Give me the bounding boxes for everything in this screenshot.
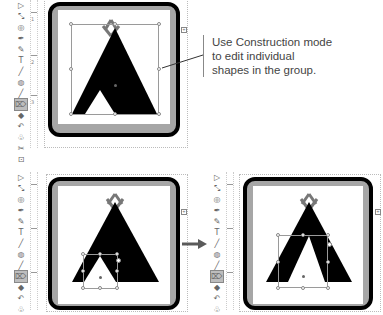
handle[interactable]	[301, 233, 305, 237]
handle[interactable]	[326, 286, 330, 290]
node-point	[327, 242, 332, 247]
group-toggle[interactable]: +	[375, 209, 381, 215]
handle[interactable]	[326, 233, 330, 237]
center-point	[302, 275, 305, 278]
construction-selection-box	[278, 235, 328, 288]
bottom-right-panel: ▷ ⤡ ◎ ✒ ✎ T ╱ ◍ ╱ ⌦ ◆ ↶ ♧ +	[210, 172, 383, 310]
handle[interactable]	[276, 286, 280, 290]
handle[interactable]	[326, 260, 330, 264]
handle[interactable]	[276, 233, 280, 237]
handle[interactable]	[276, 260, 280, 264]
handle[interactable]	[301, 286, 305, 290]
